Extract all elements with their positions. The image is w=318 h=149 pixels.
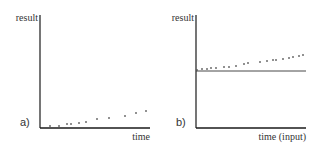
panel-b-points [196,54,304,71]
panel-b-y-label: result [172,12,194,23]
panel-b: result b) time (input) [172,12,306,143]
data-point [145,110,147,112]
data-point [215,67,217,69]
panel-a-points [49,110,147,127]
diagram-canvas: result a) time result b) time (input) [0,0,318,149]
data-point [266,60,268,62]
data-point [210,67,212,69]
panel-b-x-label: time (input) [259,131,307,143]
data-point [201,68,203,70]
data-point [292,56,294,58]
data-point [206,68,208,70]
data-point [58,125,60,127]
data-point [70,123,72,125]
data-point [282,58,284,60]
data-point [288,57,290,59]
data-point [223,66,225,68]
panel-a-x-label: time [132,131,150,142]
data-point [275,59,277,61]
data-point [49,125,51,127]
data-point [243,63,245,65]
data-point [228,66,230,68]
panel-a-y-label: result [16,12,38,23]
data-point [302,54,304,56]
panel-b-label: b) [176,116,186,128]
panel-a: result a) time [16,12,151,142]
data-point [108,117,110,119]
data-point [196,69,198,71]
data-point [78,122,80,124]
data-point [124,115,126,117]
data-point [85,121,87,123]
data-point [259,61,261,63]
data-point [96,118,98,120]
data-point [135,112,137,114]
data-point [272,59,274,61]
data-point [235,65,237,67]
data-point [247,62,249,64]
data-point [298,55,300,57]
data-point [66,123,68,125]
panel-a-label: a) [20,116,30,128]
